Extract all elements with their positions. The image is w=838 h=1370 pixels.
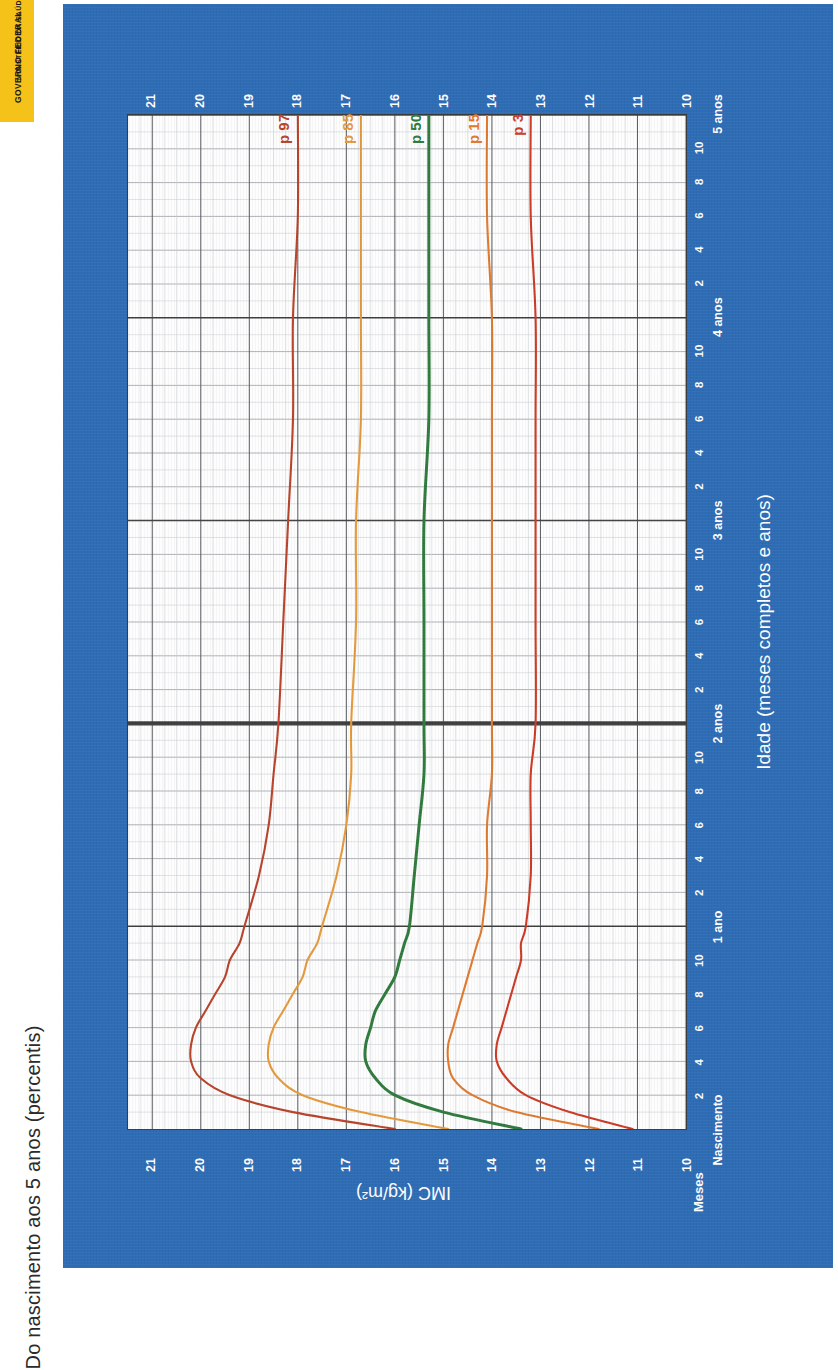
meses-label: Meses: [691, 1172, 706, 1212]
percentile-label: p 3: [509, 114, 526, 136]
logo-line-2: GOVERNO FEDERAL: [13, 0, 23, 119]
percentile-label: p 50: [407, 114, 424, 144]
x-axis-tick-label: 2: [693, 890, 705, 896]
percentile-curves: [128, 115, 686, 1129]
y-axis-tick-label: 17: [339, 74, 353, 108]
y-axis-title: IMC (kg/m²): [124, 1182, 684, 1203]
y-axis-tick-label: 11: [631, 74, 645, 108]
y-axis-tick-label: 14: [485, 74, 499, 108]
y-axis-tick-label: 19: [242, 74, 256, 108]
x-axis-tick-label: 10: [693, 345, 705, 358]
x-axis-title: Idade (meses completos e anos): [753, 6, 775, 1258]
x-axis-tick-label: 10: [693, 954, 705, 967]
chart-rotation-wrapper: 101112131415161718192021 101112131415161…: [63, 6, 833, 1258]
x-axis-tick-label: 8: [693, 788, 705, 794]
x-axis-tick-label: 6: [693, 416, 705, 422]
x-axis-tick-label: 8: [693, 991, 705, 997]
x-axis-tick-label: 10: [693, 142, 705, 155]
plot-area: [127, 114, 687, 1130]
x-axis-tick-label: 4: [693, 653, 705, 659]
x-axis-tick-label: 8: [693, 585, 705, 591]
x-axis-tick-label: 6: [693, 822, 705, 828]
x-axis-tick-label: 4: [693, 856, 705, 862]
governo-federal-logo: MINISTÉRIO DA SAÚDE GOVERNO FEDERAL: [0, 0, 34, 122]
y-axis-tick-label: 15: [437, 74, 451, 108]
x-axis-tick-label: 4: [693, 450, 705, 456]
x-axis-tick-label: 2: [693, 280, 705, 286]
x-axis-tick-label: 3 anos: [711, 501, 725, 541]
x-axis-tick-label: 2 anos: [711, 704, 725, 744]
x-axis-tick-label: 2: [693, 483, 705, 489]
chart-card: 101112131415161718192021 101112131415161…: [63, 4, 833, 1268]
x-axis-tick-label: 4: [693, 246, 705, 252]
percentile-label: p 97: [275, 114, 292, 144]
x-axis-tick-label: 1 ano: [711, 910, 725, 943]
y-axis-tick-label: 21: [144, 74, 158, 108]
y-axis-tick-label: 20: [193, 74, 207, 108]
y-axis-tick-label: 18: [290, 74, 304, 108]
percentile-label: p 85: [339, 114, 356, 144]
x-axis-tick-label: 8: [693, 382, 705, 388]
x-axis-tick-label: 6: [693, 619, 705, 625]
x-axis-tick-label: 6: [693, 1025, 705, 1031]
y-axis-tick-label: 10: [680, 74, 694, 108]
x-axis-tick-label: 6: [693, 212, 705, 218]
x-axis-tick-label: 10: [693, 751, 705, 764]
x-axis-tick-label: 8: [693, 179, 705, 185]
x-axis-tick-label: Nascimento: [711, 1095, 725, 1166]
y-axis-tick-label: 12: [583, 74, 597, 108]
page-title: Do nascimento aos 5 anos (percentis): [22, 730, 45, 1370]
y-axis-tick-label: 13: [534, 74, 548, 108]
x-axis-tick-label: 4: [693, 1059, 705, 1065]
x-axis-tick-label: 4 anos: [711, 297, 725, 337]
y-axis-tick-label: 16: [388, 74, 402, 108]
x-axis-tick-label: 5 anos: [711, 94, 725, 134]
x-axis-tick-label: 2: [693, 687, 705, 693]
x-axis-tick-label: 2: [693, 1093, 705, 1099]
percentile-label: p 15: [465, 114, 482, 144]
x-axis-tick-label: 10: [693, 548, 705, 561]
